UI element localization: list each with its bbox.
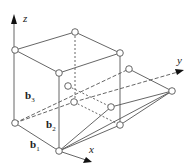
lattice-node: [72, 29, 79, 36]
lattice-node: [12, 47, 19, 54]
lattice-node: [126, 66, 133, 73]
lattice-node: [12, 120, 19, 127]
y-arrowhead-icon: [175, 69, 184, 75]
lattice-node: [108, 104, 115, 111]
lattice-node: [169, 88, 176, 95]
vector-b2-label: b2: [46, 119, 56, 133]
x-arrowhead-icon: [83, 157, 92, 163]
lattice-node: [56, 148, 63, 155]
vector-b3-label: b3: [25, 90, 35, 104]
z-arrowhead-icon: [11, 14, 17, 24]
lattice-node: [71, 99, 78, 106]
lattice-node: [65, 83, 72, 90]
vector-b1-label: b1: [30, 139, 40, 153]
lattice-node: [117, 50, 124, 57]
lattice-node: [56, 70, 63, 77]
x-axis-label: x: [89, 144, 94, 155]
y-axis-label: y: [177, 55, 182, 66]
z-axis-label: z: [23, 13, 27, 24]
lattice-node: [117, 122, 124, 129]
